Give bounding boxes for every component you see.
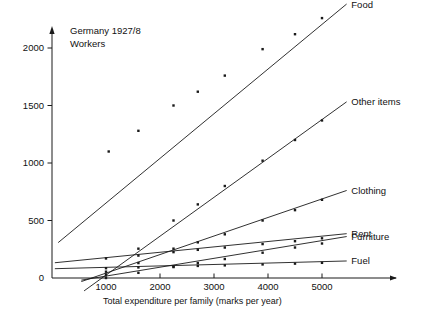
data-point [105, 273, 107, 275]
data-point [321, 199, 323, 201]
data-point [224, 233, 226, 235]
data-point [172, 104, 174, 106]
x-tick-label: 3000 [203, 281, 224, 292]
x-tick-label: 4000 [257, 281, 278, 292]
data-point [105, 257, 107, 259]
data-point [137, 130, 139, 132]
y-tick-label: 500 [28, 215, 44, 226]
series-label-food: Food [351, 0, 373, 10]
x-axis-title-text: Total expenditure per family (marks per … [103, 296, 282, 306]
series-trendline [82, 191, 347, 282]
chart-figure: 050010001500200010002000300040005000Food… [0, 0, 427, 316]
data-point [224, 264, 226, 266]
data-point [172, 265, 174, 267]
series-fuel [55, 261, 346, 269]
data-point [137, 254, 139, 256]
data-point [261, 263, 263, 265]
data-point [321, 119, 323, 121]
data-point [294, 262, 296, 264]
x-axis-arrowhead [390, 275, 397, 280]
y-tick-label: 1000 [23, 157, 44, 168]
data-point [197, 249, 199, 251]
engel-curve-chart: 050010001500200010002000300040005000Food… [0, 0, 427, 316]
data-point [224, 74, 226, 76]
series-trendline [55, 234, 346, 263]
data-point [137, 247, 139, 249]
data-point [321, 17, 323, 19]
data-point [105, 277, 107, 279]
series-label-furniture: Furniture [351, 231, 389, 242]
x-tick-label: 2000 [149, 281, 170, 292]
data-point [294, 246, 296, 248]
axes-layer [48, 26, 398, 281]
y-tick-label: 0 [39, 272, 44, 283]
y-tick-label: 2000 [23, 42, 44, 53]
data-point [294, 139, 296, 141]
data-point [261, 48, 263, 50]
data-point [321, 237, 323, 239]
data-point [172, 219, 174, 221]
data-point [137, 272, 139, 274]
data-point [197, 241, 199, 243]
data-point [261, 243, 263, 245]
data-point [321, 242, 323, 244]
data-point [197, 203, 199, 205]
data-point [105, 267, 107, 269]
data-point [108, 150, 110, 152]
data-point [261, 160, 263, 162]
data-point [197, 91, 199, 93]
data-point [224, 258, 226, 260]
y-tick-label: 1500 [23, 100, 44, 111]
data-point [321, 262, 323, 264]
data-point [294, 240, 296, 242]
series-label-fuel: Fuel [351, 255, 369, 266]
data-point [197, 262, 199, 264]
series-trendline [55, 261, 346, 269]
data-point [294, 209, 296, 211]
series-clothing [82, 191, 347, 282]
data-point [137, 266, 139, 268]
data-point [261, 219, 263, 221]
data-point [294, 33, 296, 35]
series-rent [55, 234, 346, 263]
chart-subtitle-text: Workers [70, 38, 105, 49]
series-label-clothing: Clothing [351, 185, 386, 196]
x-tick-label: 5000 [311, 281, 332, 292]
data-point [261, 252, 263, 254]
series-label-other-items: Other items [351, 96, 400, 107]
x-tick-label: 1000 [95, 281, 116, 292]
data-point [172, 247, 174, 249]
data-point [197, 265, 199, 267]
y-axis-arrowhead [49, 26, 54, 34]
data-point [224, 246, 226, 248]
chart-title-text: Germany 1927/8 [70, 25, 141, 36]
data-point [224, 185, 226, 187]
data-point [172, 251, 174, 253]
data-point [137, 262, 139, 264]
